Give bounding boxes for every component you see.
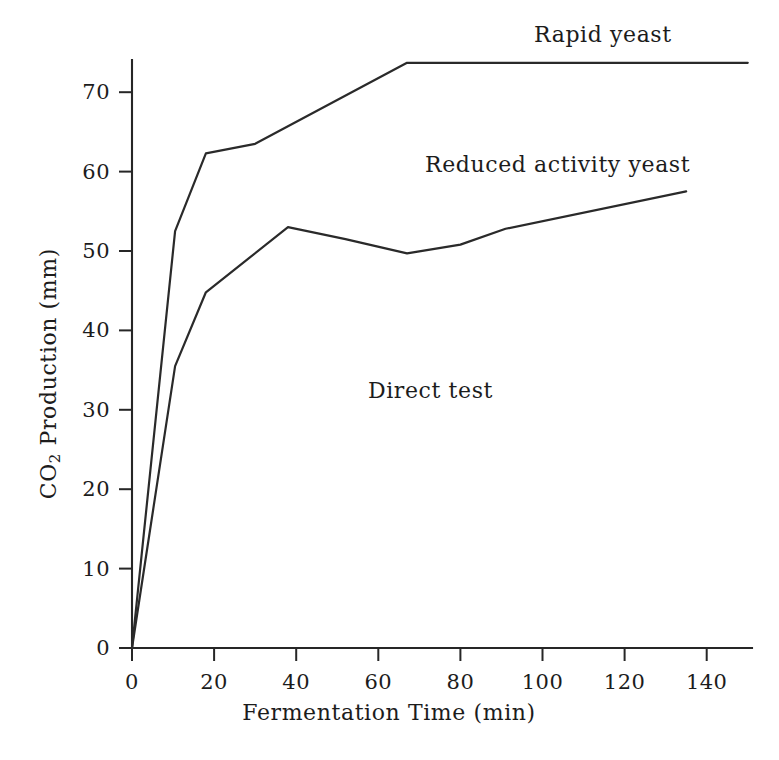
y-tick-marks xyxy=(119,92,132,648)
x-tick-label: 0 xyxy=(125,670,139,694)
x-tick-label: 20 xyxy=(200,670,228,694)
x-tick-label: 100 xyxy=(522,670,564,694)
annotation-rapid-yeast: Rapid yeast xyxy=(534,22,672,47)
y-tick-label: 10 xyxy=(40,557,110,581)
x-tick-marks xyxy=(132,648,707,661)
x-tick-label: 120 xyxy=(604,670,646,694)
y-tick-label: 40 xyxy=(40,318,110,342)
y-tick-label: 30 xyxy=(40,398,110,422)
y-tick-label: 50 xyxy=(40,239,110,263)
series-group xyxy=(132,63,748,648)
axes-group xyxy=(132,60,752,648)
x-tick-label: 40 xyxy=(282,670,310,694)
y-tick-label: 20 xyxy=(40,477,110,501)
x-axis-title: Fermentation Time (min) xyxy=(242,700,536,725)
chart-figure: 010203040506070 020406080100120140 CO2 P… xyxy=(0,0,779,760)
x-tick-label: 60 xyxy=(364,670,392,694)
y-tick-label: 70 xyxy=(40,80,110,104)
x-tick-label: 80 xyxy=(447,670,475,694)
series-line-reduced-activity-yeast xyxy=(132,191,686,648)
y-tick-label: 60 xyxy=(40,160,110,184)
annotation-direct-test: Direct test xyxy=(368,378,493,403)
annotation-reduced-activity-yeast: Reduced activity yeast xyxy=(425,152,690,177)
x-tick-label: 140 xyxy=(686,670,728,694)
y-tick-label: 0 xyxy=(40,636,110,660)
series-line-rapid-yeast xyxy=(132,63,748,648)
